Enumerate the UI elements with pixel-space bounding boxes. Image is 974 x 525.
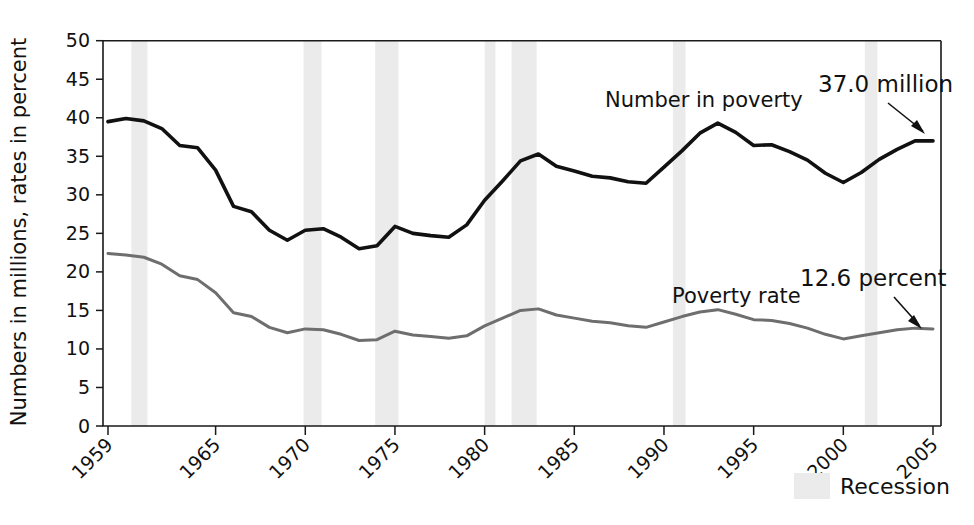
- poverty-chart-page: 05101520253035404550 1959196519701975198…: [0, 0, 974, 525]
- poverty-rate-value: 12.6 percent: [800, 265, 947, 291]
- y-tick-label: 10: [66, 337, 90, 359]
- recession-band: [485, 41, 496, 426]
- annotations-group: 12.6 percentPoverty rate37.0 millionNumb…: [605, 71, 953, 329]
- recession-band: [303, 41, 321, 426]
- number-in-poverty-value: 37.0 million: [818, 71, 953, 97]
- y-tick-label: 5: [78, 376, 90, 398]
- x-tick-label: 1980: [444, 433, 494, 483]
- x-tick-label: 1990: [623, 433, 673, 483]
- y-axis-title: Numbers in millions, rates in percent: [7, 38, 31, 427]
- recession-band: [512, 41, 537, 426]
- number-in-poverty-label: Number in poverty: [605, 88, 803, 112]
- x-tick-label: 1985: [533, 433, 583, 483]
- x-tick-label: 1995: [713, 433, 763, 483]
- y-tick-label: 30: [66, 183, 90, 205]
- recession-band: [131, 41, 147, 426]
- y-tick-label: 15: [66, 299, 90, 321]
- x-tick-label: 1959: [67, 433, 117, 483]
- recession-legend-label: Recession: [840, 474, 950, 499]
- y-axis-ticks: 05101520253035404550: [66, 29, 103, 436]
- recession-legend-swatch: [794, 473, 830, 499]
- x-tick-label: 1970: [264, 433, 314, 483]
- y-tick-label: 35: [66, 145, 90, 167]
- legend: Recession: [794, 473, 950, 499]
- y-tick-label: 50: [66, 29, 90, 51]
- y-tick-label: 20: [66, 260, 90, 282]
- x-tick-label: 1975: [354, 433, 404, 483]
- recession-band: [865, 41, 878, 426]
- y-tick-label: 25: [66, 222, 90, 244]
- y-tick-label: 0: [78, 415, 90, 437]
- poverty-chart: 05101520253035404550 1959196519701975198…: [0, 0, 974, 525]
- y-tick-label: 45: [66, 68, 90, 90]
- y-tick-label: 40: [66, 106, 90, 128]
- poverty-rate-label: Poverty rate: [672, 284, 801, 308]
- x-tick-label: 1965: [175, 433, 225, 483]
